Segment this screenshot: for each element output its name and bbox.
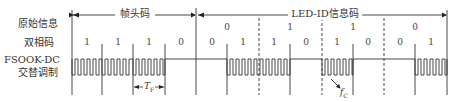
led-id-arrow-left-head — [198, 13, 204, 18]
biphase-bit-header: 1 — [146, 37, 152, 47]
original-bit: 0 — [224, 22, 230, 32]
biphase-bit-header: 0 — [178, 37, 184, 47]
carrier-pointer — [331, 79, 340, 88]
period-arrow-right-head — [159, 85, 164, 89]
original-bit: 1 — [287, 22, 293, 32]
fsook-waveform — [72, 59, 447, 75]
biphase-bit-led-id: 0 — [209, 37, 215, 47]
biphase-bit-led-id: 1 — [334, 37, 340, 47]
original-bit: 0 — [412, 22, 418, 32]
biphase-bit-led-id: 1 — [428, 37, 434, 47]
segment-led-id: LED-ID信息码 — [288, 8, 362, 20]
bit-boundaries — [72, 8, 447, 95]
frame-header-arrow-left-head — [73, 13, 79, 18]
period-label: TF — [144, 81, 154, 93]
biphase-bit-led-id: 0 — [303, 37, 309, 47]
timing-diagram — [0, 0, 458, 102]
period-arrow-left-head — [134, 85, 139, 89]
biphase-bit-led-id: 0 — [365, 37, 371, 47]
original-bit: 1 — [350, 22, 356, 32]
biphase-bit-led-id: 0 — [397, 37, 403, 47]
biphase-bit-led-id: 1 — [271, 37, 277, 47]
segment-frame-header: 帧头码 — [117, 8, 153, 20]
biphase-bit-header: 1 — [84, 37, 90, 47]
carrier-frequency-label: fC — [340, 87, 348, 99]
biphase-bit-led-id: 1 — [240, 37, 246, 47]
biphase-bit-header: 1 — [115, 37, 121, 47]
original-bit-boundaries — [259, 18, 384, 95]
